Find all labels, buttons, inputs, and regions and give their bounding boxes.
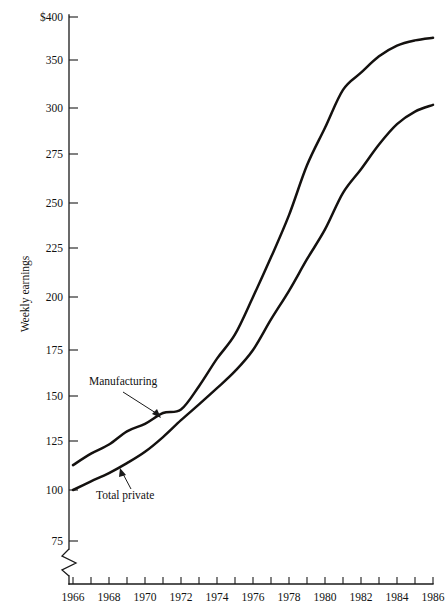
y-tick-label-200: 200 [46, 291, 64, 303]
series-line-manufacturing [73, 38, 433, 465]
x-tick-label-1974: 1974 [206, 591, 229, 603]
annotation-arrow-manufacturing [123, 392, 159, 415]
x-tick-label-1970: 1970 [134, 591, 157, 603]
x-tick-label-1986: 1986 [422, 591, 445, 603]
series-label-manufacturing: Manufacturing [89, 375, 158, 388]
y-tick-label-225: 225 [46, 242, 64, 254]
y-axis-title: Weekly earnings [19, 255, 32, 332]
y-tick-label-125: 125 [46, 435, 64, 447]
y-axis-tick-labels: $400 350 300 275 250 225 200 175 150 125… [40, 11, 63, 547]
x-axis-tick-labels: 1966 1968 1970 1972 1974 1976 1978 1980 … [62, 591, 445, 603]
y-tick-label-75: 75 [52, 535, 64, 547]
x-tick-label-1976: 1976 [242, 591, 265, 603]
y-tick-label-275: 275 [46, 148, 64, 160]
y-axis-title-text: Weekly earnings [19, 255, 32, 332]
x-tick-label-1982: 1982 [350, 591, 373, 603]
y-tick-label-250: 250 [46, 197, 64, 209]
y-tick-label-175: 175 [46, 344, 64, 356]
x-tick-label-1984: 1984 [386, 591, 409, 603]
y-tick-label-350: 350 [46, 54, 64, 66]
line-chart-svg: Weekly earnings $400 350 [0, 0, 447, 613]
annotation-arrowhead-total-private [119, 468, 126, 477]
x-tick-label-1980: 1980 [314, 591, 337, 603]
annotation-manufacturing: Manufacturing [89, 375, 161, 418]
chart-figure: Weekly earnings $400 350 [0, 0, 447, 613]
x-tick-label-1972: 1972 [170, 591, 193, 603]
y-tick-label-300: 300 [46, 102, 64, 114]
y-tick-label-150: 150 [46, 390, 64, 402]
y-axis-break-symbol [62, 549, 76, 576]
x-tick-label-1966: 1966 [62, 591, 85, 603]
y-tick-label-100: 100 [46, 484, 64, 496]
x-axis-ticks [73, 577, 433, 584]
y-tick-label-400: $400 [40, 11, 63, 23]
x-tick-label-1968: 1968 [98, 591, 121, 603]
x-tick-label-1978: 1978 [278, 591, 301, 603]
annotation-total-private: Total private [96, 468, 154, 502]
series-label-total-private: Total private [96, 489, 154, 502]
